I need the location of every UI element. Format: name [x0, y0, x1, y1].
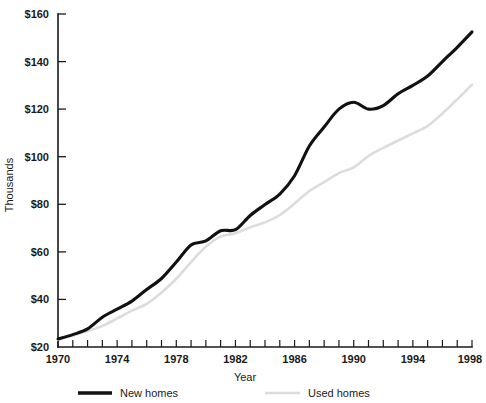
- y-axis-title: Thousands: [3, 157, 15, 212]
- y-tick-label: $40: [31, 293, 49, 305]
- y-tick-label: $160: [25, 8, 49, 20]
- x-tick-label: 1970: [46, 353, 70, 365]
- y-tick-label: $80: [31, 198, 49, 210]
- y-axis-ticks: [58, 14, 66, 299]
- chart-legend: New homes Used homes: [78, 387, 370, 399]
- x-tick-label: 1998: [458, 353, 482, 365]
- y-tick-label: $120: [25, 103, 49, 115]
- series-line-new-homes: [58, 32, 472, 339]
- x-axis-tick-labels: 1970 1974 1978 1982 1986 1990 1994 1998: [46, 353, 482, 365]
- series-line-used-homes: [58, 85, 472, 340]
- y-tick-label: $60: [31, 246, 49, 258]
- y-tick-label: $100: [25, 151, 49, 163]
- legend-label-new-homes: New homes: [120, 387, 179, 399]
- x-tick-label: 1974: [105, 353, 130, 365]
- x-tick-label: 1994: [401, 353, 426, 365]
- line-chart: Thousands $160 $140 $120 $100 $80 $60 $4…: [0, 0, 486, 403]
- x-axis-title: Year: [234, 371, 257, 383]
- y-tick-label: $140: [25, 56, 49, 68]
- x-axis-ticks: [58, 340, 472, 347]
- chart-container: Thousands $160 $140 $120 $100 $80 $60 $4…: [0, 0, 486, 403]
- x-tick-label: 1986: [282, 353, 306, 365]
- y-tick-label: $20: [31, 341, 49, 353]
- x-tick-label: 1990: [341, 353, 365, 365]
- x-tick-label: 1978: [164, 353, 188, 365]
- x-tick-label: 1982: [223, 353, 247, 365]
- y-axis-tick-labels: $160 $140 $120 $100 $80 $60 $40 $20: [25, 8, 49, 353]
- legend-label-used-homes: Used homes: [308, 387, 370, 399]
